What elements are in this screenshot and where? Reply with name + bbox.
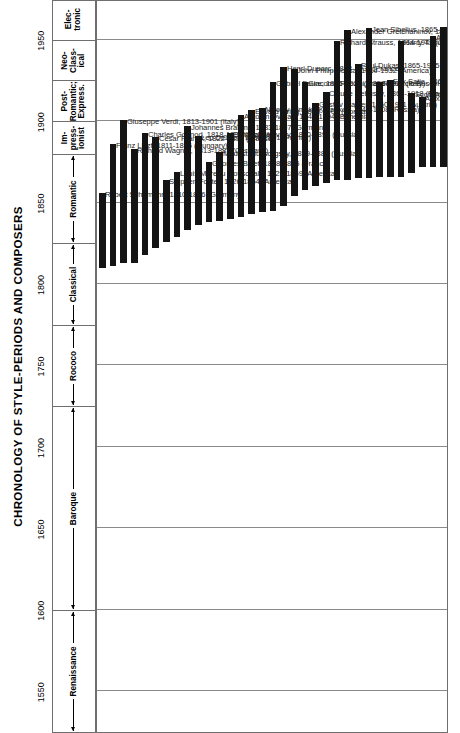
- gridline: [97, 609, 447, 610]
- lifespan-bar: [312, 103, 319, 186]
- period-arrow-right-icon: [73, 156, 74, 178]
- lifespan-bar: [99, 193, 106, 268]
- lifespan-bar: [291, 69, 298, 196]
- year-tick-label: 1650: [36, 519, 46, 539]
- gridline: [97, 527, 447, 528]
- lifespan-bar: [174, 172, 181, 237]
- lifespan-bar: [398, 41, 405, 176]
- lifespan-bar: [376, 82, 383, 176]
- lifespan-bar: [120, 120, 127, 263]
- style-period-cell: Baroque: [53, 406, 95, 610]
- period-arrow-left-icon: [73, 699, 74, 731]
- style-period-cell: Elec- tronic: [53, 0, 95, 40]
- lifespan-bar: [163, 180, 170, 242]
- lifespan-bar: [430, 36, 437, 166]
- style-period-name: Romantic: [70, 180, 79, 217]
- lifespan-bar: [184, 126, 191, 230]
- lifespan-bar: [280, 67, 287, 205]
- style-period-label: Im- press- ionist: [61, 125, 88, 152]
- year-axis: 155016001650170017501800185019001950: [36, 0, 50, 733]
- composer-lifespan-plot: Robert Schumann, 1810-1856 (Germany)Fran…: [96, 0, 448, 733]
- style-period-cell: Romantic: [53, 154, 95, 244]
- period-arrow-left-icon: [73, 528, 74, 609]
- year-tick-label: 1800: [36, 275, 46, 295]
- page-title: CHRONOLOGY OF STYLE-PERIODS AND COMPOSER…: [12, 0, 24, 733]
- chronology-figure: CHRONOLOGY OF STYLE-PERIODS AND COMPOSER…: [0, 0, 460, 733]
- gridline: [97, 690, 447, 691]
- lifespan-bar: [366, 28, 373, 178]
- style-period-label: Post- Romantic; Express.: [61, 80, 88, 121]
- lifespan-bar: [270, 82, 277, 211]
- style-period-name: Classical: [70, 267, 79, 303]
- period-arrow-left-icon: [73, 384, 74, 405]
- style-period-cell: Im- press- ionist: [53, 121, 95, 154]
- style-period-label: Rococo: [70, 326, 79, 406]
- style-period-label: Romantic: [70, 155, 79, 244]
- year-tick-label: 1750: [36, 356, 46, 376]
- period-arrow-right-icon: [73, 408, 74, 489]
- lifespan-bar: [259, 108, 266, 212]
- lifespan-bar: [216, 152, 223, 220]
- period-arrow-right-icon: [73, 327, 74, 348]
- style-period-label: Elec- tronic: [65, 7, 83, 32]
- lifespan-bar: [419, 97, 426, 167]
- year-tick-label: 1550: [36, 682, 46, 702]
- lifespan-bar: [408, 93, 415, 173]
- lifespan-bar: [152, 137, 159, 248]
- lifespan-bar: [227, 133, 234, 219]
- style-period-cell: Post- Romantic; Express.: [53, 80, 95, 121]
- style-period-label: Classical: [70, 244, 79, 324]
- lifespan-bar: [334, 41, 341, 179]
- style-period-cell: Classical: [53, 243, 95, 324]
- period-arrow-right-icon: [73, 245, 74, 263]
- lifespan-bar: [131, 149, 138, 263]
- lifespan-bar: [238, 115, 245, 218]
- year-tick-label: 1700: [36, 438, 46, 458]
- year-tick-label: 1850: [36, 194, 46, 214]
- lifespan-bar: [248, 110, 255, 214]
- period-arrow-left-icon: [73, 305, 74, 323]
- style-period-name: Rococo: [70, 351, 79, 381]
- lifespan-bar: [355, 64, 362, 178]
- style-period-name: Baroque: [70, 492, 79, 525]
- style-period-band: RenaissanceBaroqueRococoClassicalRomanti…: [52, 0, 96, 733]
- style-period-label: Baroque: [70, 407, 79, 610]
- lifespan-bar: [344, 30, 351, 180]
- rotated-figure-canvas: CHRONOLOGY OF STYLE-PERIODS AND COMPOSER…: [0, 0, 460, 733]
- year-tick-label: 1900: [36, 112, 46, 132]
- style-period-cell: Rococo: [53, 325, 95, 406]
- lifespan-bar: [195, 136, 202, 226]
- lifespan-bar: [387, 80, 394, 176]
- lifespan-bar: [110, 144, 117, 266]
- style-period-cell: Renaissance: [53, 610, 95, 732]
- year-tick-label: 1950: [36, 31, 46, 51]
- style-period-name: Renaissance: [70, 646, 79, 696]
- period-arrow-right-icon: [73, 612, 74, 644]
- style-period-cell: Neo- Class- ical: [53, 40, 95, 81]
- gridline: [97, 446, 447, 447]
- lifespan-bar: [440, 27, 447, 167]
- lifespan-bar: [323, 92, 330, 183]
- lifespan-bar: [302, 82, 309, 190]
- lifespan-bar: [206, 162, 213, 222]
- period-arrow-left-icon: [73, 221, 74, 243]
- gridline: [97, 283, 447, 284]
- lifespan-bar: [142, 133, 149, 255]
- composer-label: Ralph Vaughan Williams, 1872-1958 (Engla…: [447, 24, 448, 33]
- style-period-label: Neo- Class- ical: [61, 47, 88, 74]
- style-period-label: Renaissance: [70, 611, 79, 732]
- gridline: [97, 365, 447, 366]
- year-tick-label: 1600: [36, 601, 46, 621]
